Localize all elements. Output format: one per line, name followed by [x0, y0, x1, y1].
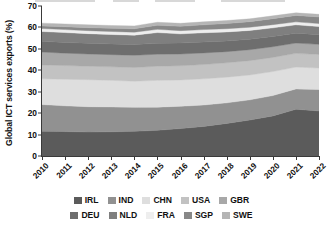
legend-label: GBR	[230, 196, 249, 205]
crop-artifact-segment	[35, 0, 95, 2]
legend-label: FRA	[157, 211, 175, 220]
legend-item-usa[interactable]: USA	[181, 196, 210, 205]
legend-label: IRL	[85, 196, 99, 205]
x-tick-mark	[181, 157, 182, 160]
legend-swatch-icon	[146, 212, 154, 219]
legend-label: SWE	[233, 211, 253, 220]
x-tick-label: 2012	[78, 162, 97, 181]
x-tick-mark	[88, 157, 89, 160]
x-tick-mark	[65, 157, 66, 160]
x-tick-mark	[227, 157, 228, 160]
x-tick-mark	[204, 157, 205, 160]
x-tick-label: 2019	[240, 162, 259, 181]
legend-label: DEU	[81, 211, 99, 220]
x-tick-label: 2020	[263, 162, 282, 181]
y-tick-label: 40	[28, 66, 37, 74]
x-tick-mark	[319, 157, 320, 160]
y-axis-title: Global ICT services exports (%)	[0, 0, 18, 165]
x-tick-label: 2021	[286, 162, 305, 181]
legend-swatch-icon	[109, 212, 117, 219]
legend-swatch-icon	[219, 197, 227, 204]
legend-swatch-icon	[74, 197, 82, 204]
y-tick-label: 10	[28, 130, 37, 138]
x-tick-label: 2015	[148, 162, 167, 181]
x-tick-mark	[273, 157, 274, 160]
legend-swatch-icon	[184, 212, 192, 219]
y-tick-label: 50	[28, 45, 37, 53]
legend-item-fra[interactable]: FRA	[146, 211, 175, 220]
legend-label: USA	[192, 196, 210, 205]
x-tick-mark	[157, 157, 158, 160]
legend-label: SGP	[195, 211, 213, 220]
y-axis-ticks: 010203040506070	[18, 6, 42, 162]
legend-label: CHN	[153, 196, 172, 205]
legend-swatch-icon	[108, 197, 116, 204]
legend-row-2: DEUNLDFRASGPSWE	[0, 208, 323, 223]
plot-wrapper: 010203040506070 201020112012201320142015…	[18, 6, 323, 196]
y-tick-label: 20	[28, 109, 37, 117]
x-tick-label: 2014	[124, 162, 143, 181]
legend-item-chn[interactable]: CHN	[142, 196, 172, 205]
x-tick-mark	[111, 157, 112, 160]
legend-row-1: IRLINDCHNUSAGBR	[0, 193, 323, 208]
legend-item-gbr[interactable]: GBR	[219, 196, 249, 205]
x-tick-mark	[134, 157, 135, 160]
crop-artifact-segment	[113, 0, 139, 2]
y-tick-label: 0	[32, 152, 37, 160]
legend-item-nld[interactable]: NLD	[109, 211, 138, 220]
x-tick-mark	[250, 157, 251, 160]
legend-swatch-icon	[222, 212, 230, 219]
x-tick-label: 2017	[194, 162, 213, 181]
cropped-header-artifact	[35, 0, 285, 2]
x-tick-label: 2011	[56, 162, 74, 180]
crop-artifact-segment	[221, 0, 285, 2]
x-tick-label: 2010	[32, 162, 51, 181]
legend-swatch-icon	[142, 197, 150, 204]
stacked-area-svg	[42, 6, 319, 156]
x-tick-label: 2018	[217, 162, 236, 181]
legend-swatch-icon	[181, 197, 189, 204]
legend-item-irl[interactable]: IRL	[74, 196, 99, 205]
x-tick-mark	[296, 157, 297, 160]
x-tick-label: 2016	[171, 162, 190, 181]
y-tick-label: 70	[28, 2, 37, 10]
x-tick-mark	[42, 157, 43, 160]
legend-swatch-icon	[70, 212, 78, 219]
stacked-area-plot	[42, 6, 319, 156]
crop-artifact-segment	[155, 0, 195, 2]
legend-item-sgp[interactable]: SGP	[184, 211, 213, 220]
legend-label: NLD	[120, 211, 138, 220]
legend-label: IND	[119, 196, 134, 205]
x-axis-ticks: 2010201120122013201420152016201720182019…	[42, 157, 319, 195]
chart-legend: IRLINDCHNUSAGBR DEUNLDFRASGPSWE	[0, 193, 323, 228]
legend-item-deu[interactable]: DEU	[70, 211, 99, 220]
x-tick-label: 2013	[101, 162, 120, 181]
legend-item-ind[interactable]: IND	[108, 196, 134, 205]
y-tick-label: 60	[28, 23, 37, 31]
x-tick-label: 2022	[309, 162, 328, 181]
y-axis-title-text: Global ICT services exports (%)	[4, 20, 14, 146]
y-tick-label: 30	[28, 88, 37, 96]
legend-item-swe[interactable]: SWE	[222, 211, 253, 220]
